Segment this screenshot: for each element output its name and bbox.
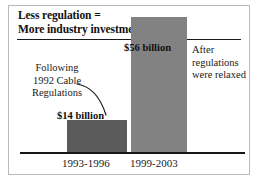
- right-annotation-line-1: After: [192, 44, 254, 57]
- right-annotation: After regulations were relaxed: [192, 44, 254, 82]
- value-label-1999-2003: $56 billion: [124, 42, 171, 53]
- right-annotation-line-3: were relaxed: [192, 69, 254, 82]
- plot-area: $14 billion $56 billion 1993-1996 1999-2…: [0, 0, 262, 182]
- left-annotation-line-1: Following: [14, 62, 100, 75]
- x-tick-label-0: 1993-1996: [62, 157, 110, 169]
- x-axis-line: [20, 152, 245, 154]
- chart-figure: Less regulation = More industry investme…: [0, 0, 262, 182]
- leader-line-icon: [76, 82, 116, 118]
- x-tick-label-1: 1999-2003: [130, 157, 178, 169]
- bar-1999-2003: [131, 17, 187, 154]
- bar-1993-1996: [67, 120, 127, 154]
- right-annotation-line-2: regulations: [192, 57, 254, 70]
